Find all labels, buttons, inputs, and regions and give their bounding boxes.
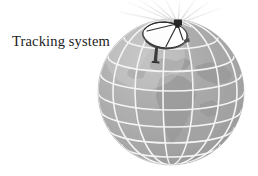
globe-antenna-illustration	[0, 0, 258, 176]
signal-beam-rays	[120, 0, 221, 24]
figure-canvas: Tracking system	[0, 0, 258, 176]
